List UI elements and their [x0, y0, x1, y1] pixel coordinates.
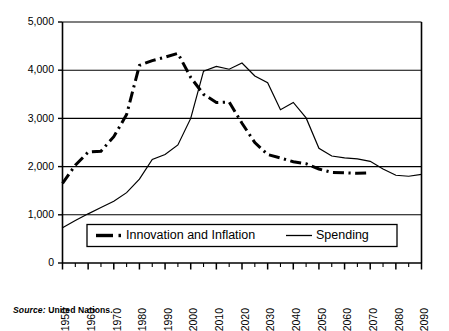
x-axis-tick-labels: 1950196019701980199020002010202020302040… — [59, 308, 430, 331]
y-tick-label: 3,000 — [28, 112, 54, 124]
chart-background — [0, 0, 449, 331]
x-tick-label: 2000 — [187, 308, 199, 331]
source-label: Source: — [13, 305, 46, 315]
legend-label-innovation-and-inflation: Innovation and Inflation — [126, 228, 255, 242]
y-tick-label: 1,000 — [28, 208, 54, 220]
x-tick-label: 2040 — [290, 308, 302, 331]
y-tick-label: 0 — [48, 256, 54, 268]
x-tick-label: 2090 — [418, 308, 430, 331]
y-tick-label: 5,000 — [28, 15, 54, 27]
x-tick-label: 2080 — [393, 308, 405, 331]
x-tick-label: 2060 — [341, 308, 353, 331]
y-tick-label: 4,000 — [28, 63, 54, 75]
source-text: United Nations. — [48, 305, 113, 315]
x-tick-label: 1990 — [162, 308, 174, 331]
chart-figure: 01,0002,0003,0004,0005,000 1950196019701… — [0, 0, 449, 331]
x-tick-label: 2070 — [367, 308, 379, 331]
y-tick-label: 2,000 — [28, 160, 54, 172]
line-chart: 01,0002,0003,0004,0005,000 1950196019701… — [0, 0, 449, 331]
x-tick-label: 2050 — [316, 308, 328, 331]
x-tick-label: 1980 — [136, 308, 148, 331]
legend-label-spending: Spending — [316, 228, 369, 242]
chart-legend: Innovation and InflationSpending — [87, 225, 397, 247]
source-note: Source: United Nations. — [13, 305, 113, 315]
x-tick-label: 2030 — [264, 308, 276, 331]
x-tick-label: 2020 — [239, 308, 251, 331]
x-tick-label: 2010 — [213, 308, 225, 331]
